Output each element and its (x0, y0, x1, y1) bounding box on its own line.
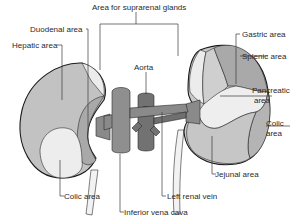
left-kidney (173, 45, 270, 214)
label-colic-left: Colic area (64, 192, 101, 201)
left-ureter (173, 130, 184, 214)
label-pancreatic-2: area (254, 96, 271, 105)
label-gastric: Gastric area (242, 30, 286, 39)
label-duodenal: Duodenal area (30, 25, 83, 34)
label-hepatic: Hepatic area (12, 41, 58, 50)
label-pancreatic-1: Pancreatic (252, 86, 290, 95)
label-colic-right-1: Colic (266, 119, 284, 128)
label-splenic: Splenic area (242, 52, 287, 61)
label-aorta: Aorta (134, 63, 154, 72)
great-vessels (104, 88, 188, 154)
aorta-shape (138, 93, 154, 151)
inferior-vena-cava-shape (112, 88, 130, 154)
label-jejunal: Jejunal area (215, 170, 259, 179)
label-colic-right-2: area (266, 129, 283, 138)
label-left-renal-vein: Left renal vein (167, 192, 217, 201)
label-suprarenal: Area for suprarenal glands (92, 3, 186, 12)
kidney-relations-diagram: Area for suprarenal glands Duodenal area… (0, 0, 295, 222)
right-colic-area (40, 128, 82, 178)
label-ivc: Inferior vena cava (124, 208, 188, 217)
